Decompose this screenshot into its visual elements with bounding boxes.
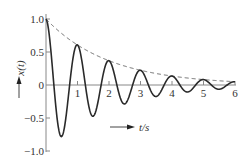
y-tick-labels: 1.0 0.5 0 −0.5 −1.0: [24, 13, 44, 157]
y-tick-neg0.5: −0.5: [24, 112, 44, 124]
y-arrowhead-icon: [17, 76, 22, 84]
x-tick-5: 5: [201, 87, 207, 99]
x-axis-label-group: t/s: [110, 121, 149, 133]
x-tick-4: 4: [169, 87, 175, 99]
x-tick-2: 2: [106, 87, 112, 99]
y-axis-label: x(t): [14, 60, 27, 77]
x-tick-1: 1: [75, 87, 81, 99]
y-tick-0: 0: [39, 79, 45, 91]
damped-cosine-curve: [46, 19, 235, 137]
y-tick-neg1.0: −1.0: [24, 145, 44, 157]
x-tick-3: 3: [138, 87, 144, 99]
x-tick-6: 6: [232, 87, 238, 99]
x-axis-label: t/s: [139, 121, 149, 133]
y-tick-0.5: 0.5: [30, 46, 44, 58]
damped-oscillation-chart: 1.0 0.5 0 −0.5 −1.0 1 2 3 4 5 6 x(t) t/s: [0, 0, 245, 165]
y-axis-label-group: x(t): [14, 60, 27, 98]
y-tick-1.0: 1.0: [30, 13, 44, 25]
x-arrowhead-icon: [127, 125, 135, 130]
